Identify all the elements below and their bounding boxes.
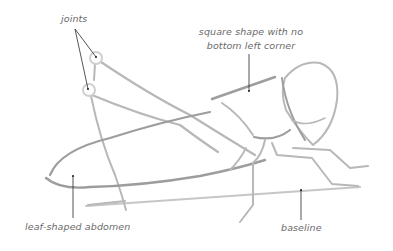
baseline-label: baseline <box>281 222 322 233</box>
head-bottom-curve <box>292 118 325 124</box>
joints-label: joints <box>61 13 87 24</box>
baseline-dot <box>300 189 302 191</box>
upper-joint-dot <box>95 56 97 58</box>
thorax-side-line <box>222 103 253 135</box>
abdomen-bottom-curve <box>46 160 265 188</box>
abdomen-dot <box>72 175 74 177</box>
head-outline <box>283 63 338 145</box>
baseline-line <box>86 187 360 206</box>
lower-joint-circle <box>83 84 95 96</box>
hind-leg-lower-line <box>92 95 218 152</box>
square-shape-label: square shape with no bottom left corner <box>196 25 306 53</box>
square-shape-label-line2: bottom left corner <box>196 39 306 53</box>
thorax-top-line <box>212 77 275 99</box>
abdomen-top-curve <box>50 112 210 175</box>
square-shape-dot <box>248 90 250 92</box>
lower-leg-line <box>91 96 126 210</box>
joint-connector-line <box>94 64 95 80</box>
lower-joint-dot <box>87 88 89 90</box>
diagram-canvas: joints square shape with no bottom left … <box>0 0 393 251</box>
thorax-bottom-curve <box>254 130 290 138</box>
square-shape-label-line1: square shape with no <box>196 25 306 39</box>
abdomen-label: leaf-shaped abdomen <box>25 221 130 232</box>
